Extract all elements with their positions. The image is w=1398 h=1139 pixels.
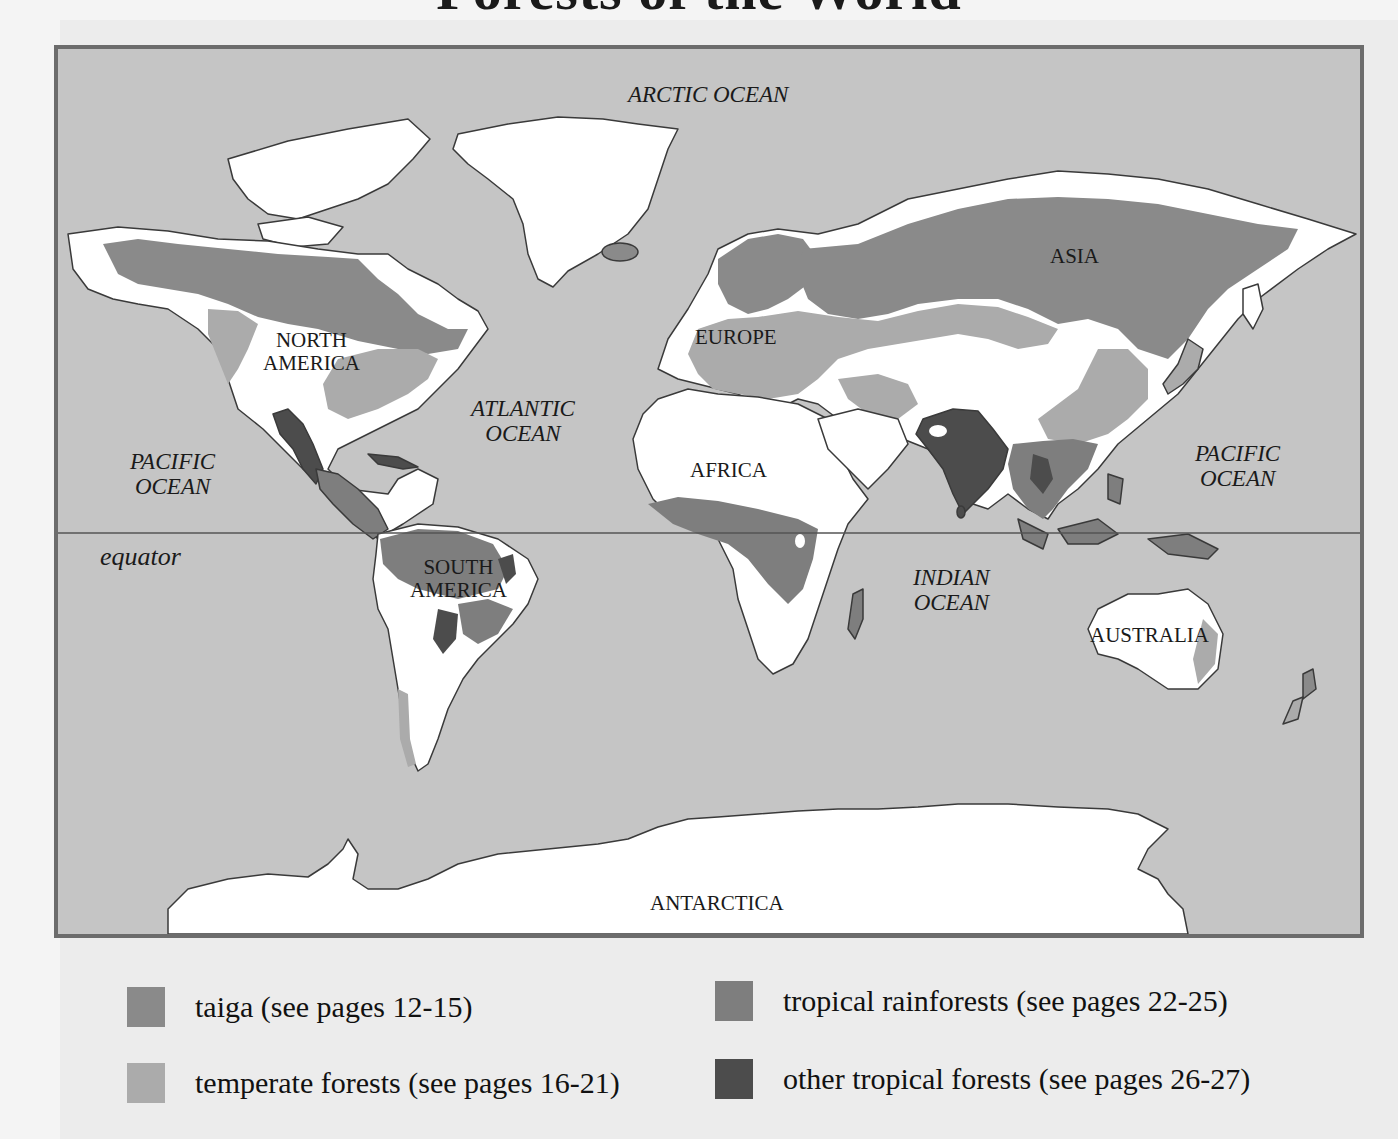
- swatch-taiga: [127, 987, 165, 1027]
- label-indian-ocean: INDIANOCEAN: [913, 565, 990, 616]
- legend-label-temperate: temperate forests (see pages 16-21): [195, 1066, 620, 1100]
- label-pacific-ocean-east: PACIFICOCEAN: [1195, 441, 1280, 492]
- label-north-america: NORTHAMERICA: [263, 329, 360, 375]
- label-antarctica: ANTARCTICA: [650, 892, 784, 915]
- legend-item-other-tropical: other tropical forests (see pages 26-27): [715, 1059, 1250, 1099]
- madagascar: [848, 589, 863, 639]
- world-forest-map: ARCTIC OCEAN ATLANTICOCEAN PACIFICOCEAN …: [54, 45, 1364, 938]
- swatch-tropical-rainforest: [715, 981, 753, 1021]
- map-graphic: [58, 49, 1360, 934]
- label-asia: ASIA: [1050, 245, 1099, 268]
- iceland: [602, 243, 638, 261]
- map-legend: taiga (see pages 12-15) temperate forest…: [0, 975, 1398, 1125]
- title-region: Forests of the World: [0, 0, 1398, 18]
- legend-item-taiga: taiga (see pages 12-15): [127, 987, 472, 1027]
- indonesia: [1058, 519, 1118, 544]
- swatch-temperate: [127, 1063, 165, 1103]
- legend-item-tropical-rainforest: tropical rainforests (see pages 22-25): [715, 981, 1228, 1021]
- label-europe: EUROPE: [695, 326, 777, 349]
- legend-label-tropical-rainforest: tropical rainforests (see pages 22-25): [783, 984, 1228, 1018]
- label-equator: equator: [100, 543, 181, 572]
- greenland-land: [453, 117, 678, 287]
- arctic-islands: [228, 119, 430, 219]
- label-arctic-ocean: ARCTIC OCEAN: [628, 82, 788, 107]
- legend-item-temperate: temperate forests (see pages 16-21): [127, 1063, 620, 1103]
- swatch-other-tropical: [715, 1059, 753, 1099]
- label-pacific-ocean-west: PACIFICOCEAN: [130, 449, 215, 500]
- label-australia: AUSTRALIA: [1090, 624, 1209, 647]
- legend-label-taiga: taiga (see pages 12-15): [195, 990, 472, 1024]
- legend-label-other-tropical: other tropical forests (see pages 26-27): [783, 1062, 1250, 1096]
- label-atlantic-ocean: ATLANTICOCEAN: [471, 396, 575, 447]
- page-title: Forests of the World: [0, 0, 1398, 18]
- label-africa: AFRICA: [690, 459, 767, 482]
- label-south-america: SOUTHAMERICA: [410, 556, 507, 602]
